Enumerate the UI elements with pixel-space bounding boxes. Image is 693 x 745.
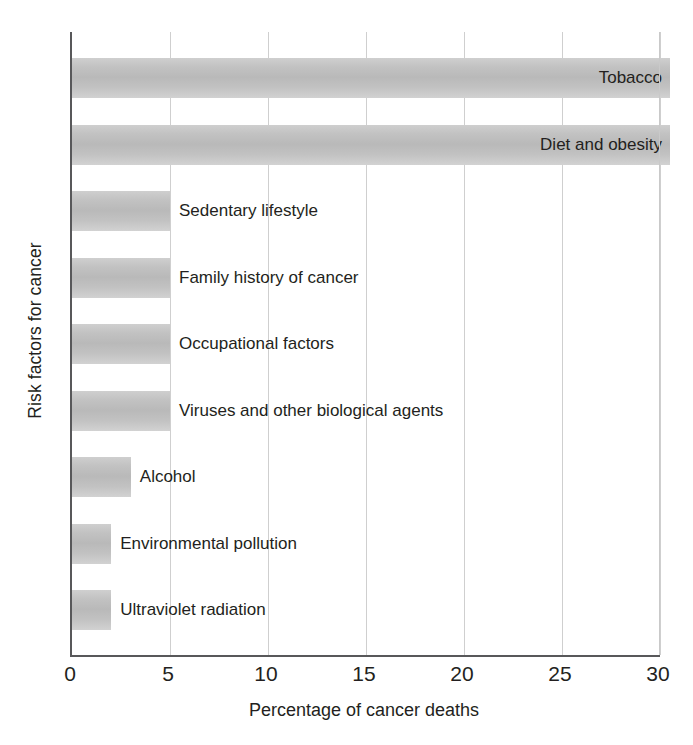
bar-row: Viruses and other biological agents (72, 391, 443, 431)
x-tick-label-30: 30 (646, 662, 669, 686)
bar-label: Occupational factors (170, 334, 334, 354)
bar-row: Family history of cancer (72, 258, 359, 298)
bar (72, 590, 111, 630)
bar-label: Diet and obesity (540, 135, 670, 155)
x-tick-label-20: 20 (450, 662, 473, 686)
bar-label: Tobacco (599, 68, 670, 88)
bar-row: Diet and obesity (72, 125, 670, 165)
bar (72, 457, 131, 497)
x-tick-label-10: 10 (254, 662, 277, 686)
plot-area: TobaccoDiet and obesitySedentary lifesty… (70, 32, 660, 657)
bar-row: Ultraviolet radiation (72, 590, 266, 630)
bar-row: Occupational factors (72, 324, 334, 364)
x-tick-label-0: 0 (64, 662, 76, 686)
bar-row: Environmental pollution (72, 524, 297, 564)
bar-label: Viruses and other biological agents (170, 401, 443, 421)
x-axis-title: Percentage of cancer deaths (70, 700, 658, 721)
bar (72, 191, 170, 231)
bar-label: Ultraviolet radiation (111, 600, 266, 620)
x-tick-label-15: 15 (352, 662, 375, 686)
bar (72, 258, 170, 298)
bar: Tobacco (72, 58, 670, 98)
bar-row: Sedentary lifestyle (72, 191, 318, 231)
bar (72, 391, 170, 431)
x-axis-tick-labels: 051015202530 (70, 662, 658, 692)
bar (72, 324, 170, 364)
bar: Diet and obesity (72, 125, 670, 165)
bar-row: Alcohol (72, 457, 196, 497)
y-axis-title: Risk factors for cancer (0, 0, 70, 660)
bar (72, 524, 111, 564)
y-axis-title-text: Risk factors for cancer (25, 242, 46, 418)
x-tick-label-25: 25 (548, 662, 571, 686)
bar-label: Sedentary lifestyle (170, 201, 318, 221)
bar-row: Tobacco (72, 58, 670, 98)
bar-label: Alcohol (131, 467, 196, 487)
bar-label: Family history of cancer (170, 268, 359, 288)
x-tick-label-5: 5 (162, 662, 174, 686)
bar-label: Environmental pollution (111, 534, 297, 554)
cancer-risk-factors-bar-chart: Risk factors for cancer TobaccoDiet and … (0, 0, 693, 745)
